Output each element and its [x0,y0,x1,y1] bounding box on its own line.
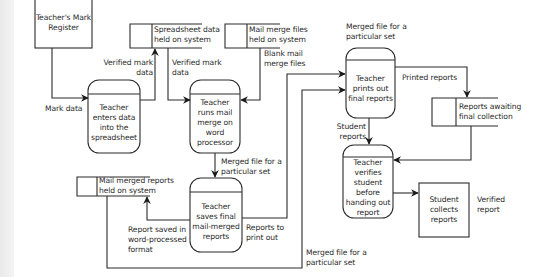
process-save-reports: Teacher saves final mail-merged reports [191,193,241,250]
flow-label-line: data [172,68,221,78]
store-spreadsheet: Spreadsheet data held on system [154,25,220,45]
process-label: Teacher runs mail merge on word processo… [192,98,238,148]
store-reports-awaiting: Reports awaiting final collection [459,102,521,122]
flow-label-line: Report saved in [128,225,187,235]
store-label-line: final collection [459,112,521,122]
flow-label-mark-data: Mark data [45,104,82,114]
entity-mark-register: Teacher's Mark Register [35,0,92,46]
flow-label-line: word-processed [128,235,187,245]
flow-label-line: merge files [264,59,305,69]
process-print-reports: Teacher prints out final reports [348,61,393,116]
flow-label-student-reports: Student reports [322,122,366,142]
store-label-line: Mail merged reports [99,176,174,186]
flow-label-line: data [103,68,153,78]
flow-label-line: particular set [306,258,367,268]
flow-label-verified-mark-data-1: Verified mark data [103,58,153,78]
flow-label-merged-file-p2-p4: Merged file for a particular set [221,157,282,177]
flow-label-line: report [477,205,505,215]
flow-label-line: Reports to [246,223,284,233]
flow-label-line: particular set [346,32,407,42]
store-label-line: Spreadsheet data [154,25,220,35]
flow-label-line: Merged file for a [346,22,407,32]
store-label-line: held on system [99,186,174,196]
process-label: Teacher verifies student before handing … [344,158,392,218]
process-mail-merge: Teacher runs mail merge on word processo… [192,95,238,151]
flow-label-verified-report: Verified report [477,195,505,215]
process-label: Teacher saves final mail-merged reports [191,202,241,242]
process-verify-student: Teacher verifies student before handing … [344,158,392,217]
flow-label-line: Verified mark [172,58,221,68]
flow-label-line: Blank mail [264,49,305,59]
store-label-line: held on system [154,35,220,45]
process-label: Teacher enters data into the spreadsheet [90,103,138,143]
flow-label-printed-reports: Printed reports [402,73,457,83]
store-mail-merged-reports: Mail merged reports held on system [99,176,174,196]
flow-label-merged-file-top: Merged file for a particular set [346,22,407,42]
store-label-line: held on system [249,35,308,45]
flow-label-line: particular set [221,167,282,177]
flow-label-report-saved: Report saved in word-processed format [128,225,187,255]
flow-label-blank-mail-merge: Blank mail merge files [264,49,305,69]
store-label-line: Reports awaiting [459,102,521,112]
entity-student-collects: Student collects reports [419,183,469,237]
flow-label-line: format [128,245,187,255]
flow-label-line: Merged file for a [306,248,367,258]
flow-label-line: reports [322,132,366,142]
flow-label-line: Verified mark [103,58,153,68]
store-label-line: Mail merge files [249,25,308,35]
flow-label-line: Merged file for a [221,157,282,167]
process-label: Teacher prints out final reports [348,74,393,104]
store-mail-merge-files: Mail merge files held on system [249,25,308,45]
process-enter-data: Teacher enters data into the spreadsheet [90,95,138,151]
entity-label: Teacher's Mark Register [35,13,92,33]
flow-label-merged-file-bottom: Merged file for a particular set [306,248,367,268]
entity-label: Student collects reports [419,195,469,225]
flow-label-line: print out [246,233,284,243]
flow-label-reports-to-print: Reports to print out [246,223,284,243]
flow-label-verified-mark-data-2: Verified mark data [172,58,221,78]
flow-label-line: Student [322,122,366,132]
flow-label-line: Verified [477,195,505,205]
